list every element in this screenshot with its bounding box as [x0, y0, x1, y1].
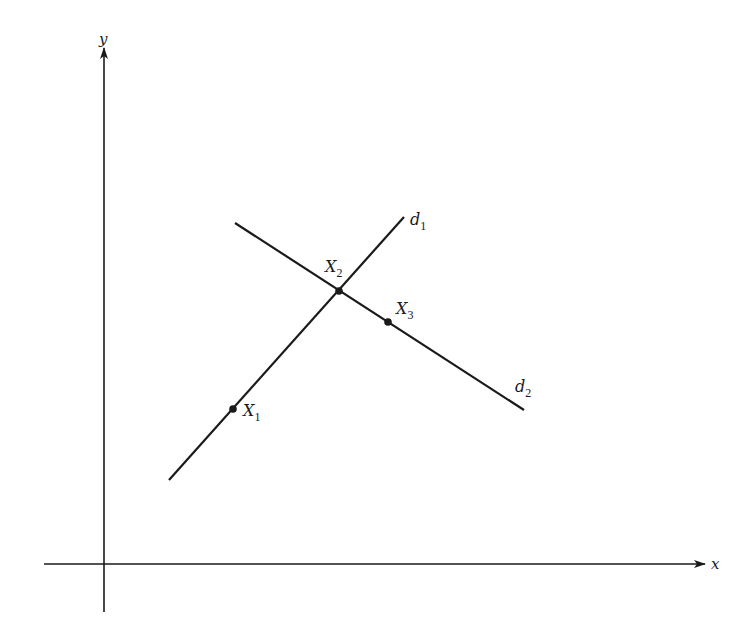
point-x2-label: X2: [323, 257, 342, 280]
y-axis-label: y: [98, 30, 108, 48]
point-x3: X3: [384, 299, 413, 326]
line-d2: d2: [235, 223, 531, 410]
point-x2: X2: [323, 257, 343, 295]
x-axis-label: x: [711, 555, 720, 573]
y-axis: y: [98, 30, 108, 612]
line-d1-label: d1: [410, 210, 426, 233]
point-x1: X1: [229, 401, 260, 424]
line-d1: d1: [169, 210, 426, 480]
x-axis: x: [44, 555, 720, 573]
point-x1-label: X1: [241, 401, 260, 424]
point-x3-label: X3: [394, 299, 413, 322]
diagram-canvas: x y d1 d2 X1 X2 X3: [0, 0, 753, 639]
line-d2-label: d2: [515, 377, 531, 400]
